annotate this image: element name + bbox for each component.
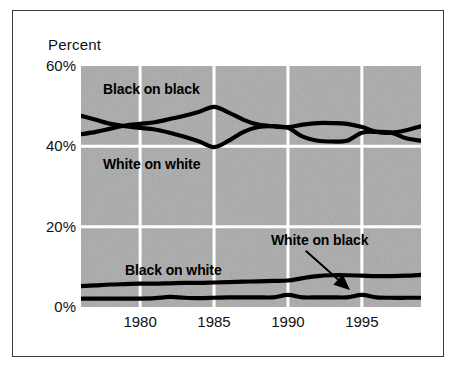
chart-figure: Percent 60% 40% 20% 0% <box>0 0 456 372</box>
y-tick-20: 20% <box>30 218 76 235</box>
plot-area: Black on black White on white Black on w… <box>81 66 421 307</box>
y-tick-40: 40% <box>30 137 76 154</box>
series-label-black-on-black: Black on black <box>103 81 200 97</box>
series-label-black-on-white: Black on white <box>125 262 222 278</box>
x-tick-1990: 1990 <box>248 313 328 330</box>
x-tick-1980: 1980 <box>100 313 180 330</box>
y-tick-60: 60% <box>30 57 76 74</box>
x-tick-1995: 1995 <box>322 313 402 330</box>
series-label-white-on-white: White on white <box>103 156 200 172</box>
x-axis-tick-labels: 1980 1985 1990 1995 <box>0 313 456 337</box>
x-tick-1985: 1985 <box>174 313 254 330</box>
series-label-white-on-black: White on black <box>271 232 368 248</box>
